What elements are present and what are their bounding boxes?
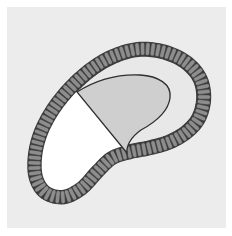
cell-layer-diagram — [0, 0, 232, 236]
epithelial-cell — [198, 95, 211, 99]
figure-stage — [0, 0, 232, 236]
epithelial-cell — [60, 190, 65, 203]
epithelial-cell — [28, 161, 41, 166]
epithelial-cell — [140, 42, 144, 55]
epithelial-cell — [28, 155, 41, 160]
epithelial-cell — [28, 166, 41, 171]
epithelial-cell — [145, 42, 150, 55]
